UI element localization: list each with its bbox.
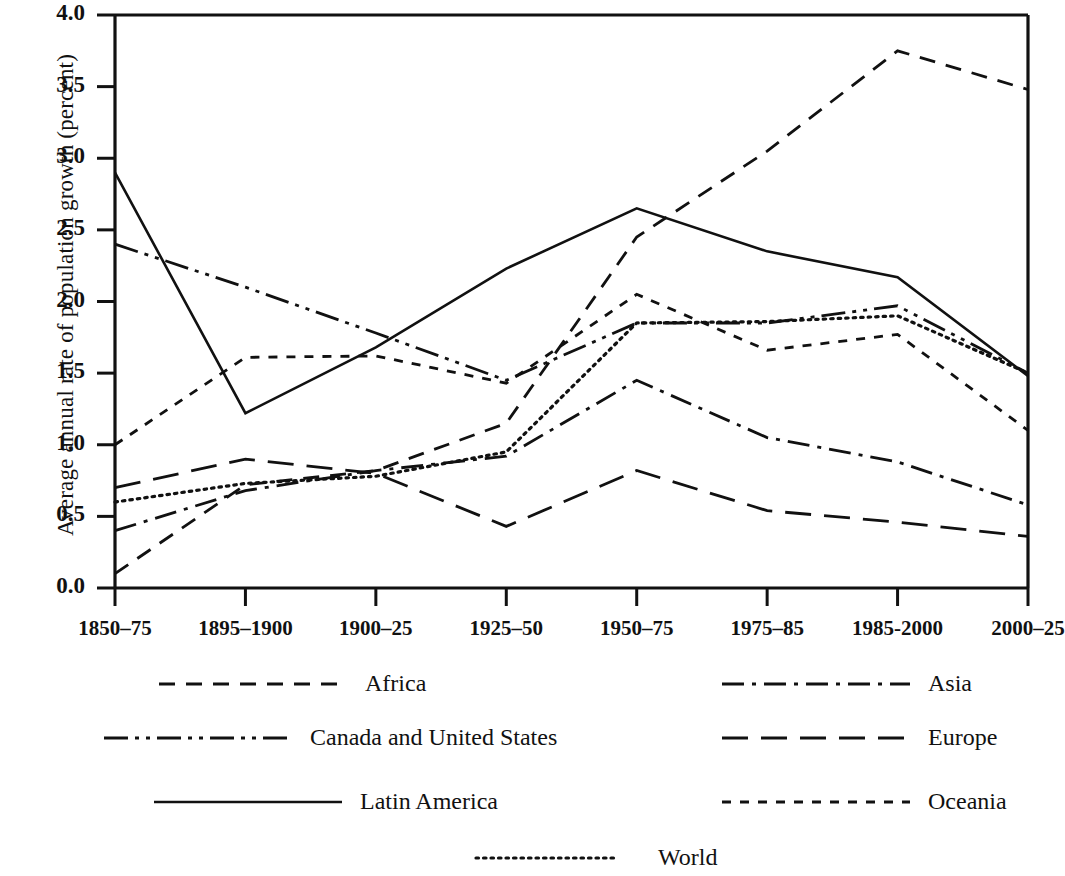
legend-line-sample bbox=[100, 727, 296, 749]
legend-line-sample bbox=[718, 727, 914, 749]
legend-item-europe[interactable]: Europe bbox=[718, 724, 997, 751]
chart-legend: AfricaAsiaCanada and United StatesEurope… bbox=[0, 662, 1058, 876]
series-line-africa bbox=[115, 51, 1028, 574]
legend-swatch-long-dash bbox=[718, 727, 914, 749]
legend-item-oceania[interactable]: Oceania bbox=[718, 788, 1007, 815]
x-tick-label: 1950–75 bbox=[600, 616, 674, 641]
x-tick-label: 2000–25 bbox=[991, 616, 1065, 641]
axes-frame bbox=[97, 15, 1028, 606]
x-tick-label: 1895–1900 bbox=[198, 616, 293, 641]
series-line-canada-and-united-states bbox=[115, 244, 1028, 380]
legend-label: Latin America bbox=[360, 788, 498, 815]
x-tick-label: 1985-2000 bbox=[852, 616, 943, 641]
x-tick-label: 1900–25 bbox=[339, 616, 413, 641]
x-tick-label: 1925–50 bbox=[470, 616, 544, 641]
series-line-europe bbox=[115, 459, 1028, 536]
legend-item-latin-america[interactable]: Latin America bbox=[150, 788, 498, 815]
legend-swatch-short-dash bbox=[718, 791, 914, 813]
legend-line-sample bbox=[448, 847, 644, 869]
legend-line-sample bbox=[155, 673, 351, 695]
legend-swatch-dash-dot-dot bbox=[100, 727, 296, 749]
legend-line-sample bbox=[150, 791, 346, 813]
legend-item-world[interactable]: World bbox=[448, 844, 717, 871]
x-tick-label: 1975–85 bbox=[730, 616, 804, 641]
data-series-group bbox=[115, 51, 1028, 574]
legend-line-sample bbox=[718, 673, 914, 695]
x-tick-label: 1850–75 bbox=[78, 616, 152, 641]
legend-label: Oceania bbox=[928, 788, 1007, 815]
series-line-latin-america bbox=[115, 173, 1028, 414]
legend-swatch-dash-dot bbox=[718, 673, 914, 695]
legend-line-sample bbox=[718, 791, 914, 813]
legend-swatch-solid bbox=[150, 791, 346, 813]
legend-item-canada-and-united-states[interactable]: Canada and United States bbox=[100, 724, 557, 751]
legend-label: Europe bbox=[928, 724, 997, 751]
legend-label: Africa bbox=[365, 670, 426, 697]
legend-item-asia[interactable]: Asia bbox=[718, 670, 972, 697]
legend-swatch-dotted bbox=[448, 847, 644, 869]
legend-label: Asia bbox=[928, 670, 972, 697]
legend-swatch-dashed bbox=[155, 673, 351, 695]
legend-item-africa[interactable]: Africa bbox=[155, 670, 426, 697]
legend-label: Canada and United States bbox=[310, 724, 557, 751]
series-line-asia bbox=[115, 380, 1028, 530]
legend-label: World bbox=[658, 844, 717, 871]
